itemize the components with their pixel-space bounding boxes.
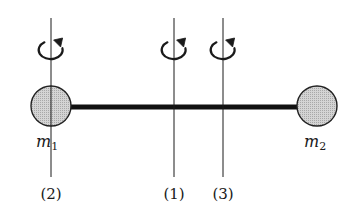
dumbbell-diagram: m1m2(2)(1)(3): [0, 0, 355, 219]
mass-label-m2: m2: [304, 132, 326, 153]
axis-2-label: (2): [40, 185, 61, 203]
axis-3-label: (3): [212, 185, 233, 203]
axis-1-label: (1): [163, 185, 184, 203]
mass-m2: [297, 86, 337, 126]
diagram-canvas: m1m2(2)(1)(3): [0, 0, 355, 219]
labels: m1m2(2)(1)(3): [36, 132, 326, 203]
mass-label-m1: m1: [36, 132, 58, 153]
